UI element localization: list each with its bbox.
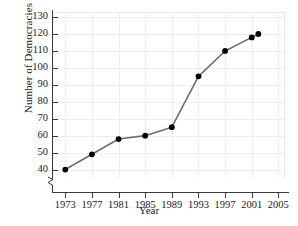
data-point <box>142 133 148 139</box>
data-point <box>196 73 202 79</box>
data-point <box>89 151 95 157</box>
data-series-layer <box>0 0 298 226</box>
data-point <box>169 124 175 130</box>
series-line <box>65 34 258 170</box>
data-point <box>62 167 68 173</box>
data-point <box>116 136 122 142</box>
series-markers <box>62 31 261 172</box>
x-axis-title: Year <box>0 204 298 216</box>
data-point <box>249 35 255 41</box>
chart-container: Number of Democracies 405060708090100110… <box>0 0 298 226</box>
data-point <box>222 48 228 54</box>
data-point <box>255 31 261 37</box>
